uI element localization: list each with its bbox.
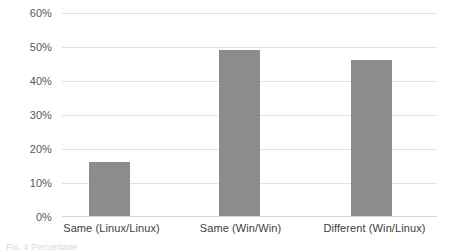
y-axis-tick-label-10: 10% (0, 178, 52, 189)
y-axis-tick-label-60: 60% (0, 8, 52, 19)
bar-different-win-linux (351, 60, 392, 216)
x-axis-label-same-linux-linux: Same (Linux/Linux) (39, 222, 184, 235)
bar-chart: 60% 50% 40% 30% 20% 10% 0% Same (Linux/L… (0, 0, 449, 252)
gridline-60 (62, 13, 437, 14)
bar-same-win-win (219, 50, 260, 216)
x-axis-label-same-win-win: Same (Win/Win) (178, 222, 303, 235)
y-axis-tick-label-30: 30% (0, 110, 52, 121)
x-axis-label-different-win-linux: Different (Win/Linux) (300, 222, 449, 235)
bar-same-linux-linux (89, 162, 130, 216)
y-axis-tick-label-20: 20% (0, 144, 52, 155)
gridline-50 (62, 47, 437, 48)
gridline-0-baseline (62, 216, 437, 217)
figure-caption: Fig. 4 Percentage (6, 243, 77, 250)
plot-area (62, 13, 437, 217)
y-axis-tick-label-40: 40% (0, 76, 52, 87)
y-axis-tick-label-50: 50% (0, 42, 52, 53)
